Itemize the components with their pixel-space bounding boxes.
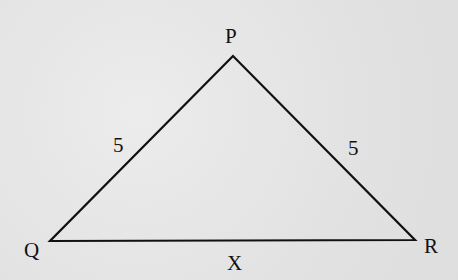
diagram-canvas: P Q R 5 5 X: [0, 0, 458, 280]
side-label-pr: 5: [348, 138, 359, 159]
side-label-pq: 5: [113, 135, 124, 156]
triangle-pqr: [50, 56, 415, 241]
vertex-label-p: P: [225, 26, 237, 47]
vertex-label-q: Q: [24, 240, 39, 261]
side-label-qr: X: [227, 253, 242, 274]
vertex-label-r: R: [424, 236, 438, 257]
